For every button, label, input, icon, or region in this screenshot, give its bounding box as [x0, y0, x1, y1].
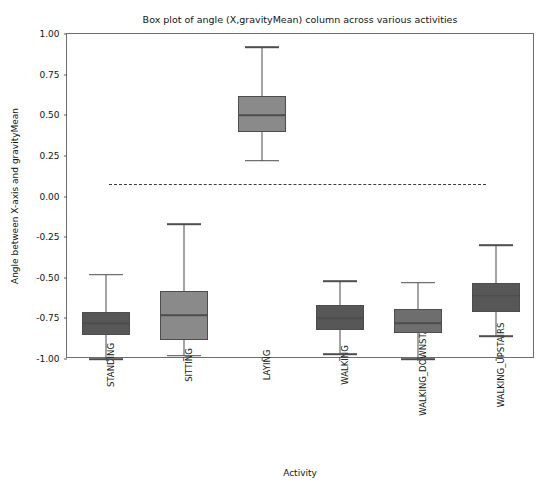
x-tick-label-wrap: STANDING [84, 365, 128, 373]
y-tick-label: -0.50 [36, 273, 63, 282]
y-tick-label: -0.25 [36, 233, 63, 242]
y-tick: 0.75 [39, 70, 67, 79]
y-tick: 1.00 [39, 30, 67, 39]
lower-whisker [496, 312, 497, 336]
x-tick-label-wrap: WALKING_UPSTAIRS [454, 365, 539, 373]
y-tick-mark [64, 34, 68, 35]
y-tick: 0.50 [39, 111, 67, 120]
x-axis-title: Activity [66, 468, 534, 478]
y-tick-mark [64, 359, 68, 360]
y-tick-label: -0.75 [36, 314, 63, 323]
x-tick-label-wrap: SITTING [167, 365, 201, 373]
lower-whisker [418, 333, 419, 359]
upper-whisker-cap [167, 223, 201, 225]
upper-whisker [262, 47, 263, 96]
y-tick-mark [64, 277, 68, 278]
upper-whisker [184, 224, 185, 291]
x-tick-label-wrap: WALKING [320, 365, 360, 373]
upper-whisker-cap [245, 46, 279, 48]
lower-whisker-cap [167, 355, 201, 357]
upper-whisker-cap [401, 282, 435, 284]
box-group[interactable] [472, 34, 520, 357]
y-tick: -0.75 [36, 314, 67, 323]
box-rect[interactable] [472, 283, 520, 312]
upper-whisker-cap [479, 244, 513, 246]
y-tick: -1.00 [36, 355, 67, 364]
lower-whisker [184, 340, 185, 356]
y-tick-label: 0.00 [39, 192, 63, 201]
upper-whisker-cap [89, 274, 123, 276]
y-tick-label: 0.25 [39, 151, 63, 160]
figure-canvas: Box plot of angle (X,gravityMean) column… [0, 0, 550, 495]
y-tick: -0.25 [36, 233, 67, 242]
median-line [316, 318, 364, 320]
y-tick-mark [64, 318, 68, 319]
median-line [160, 314, 208, 316]
box-rect[interactable] [394, 309, 442, 333]
lower-whisker-cap [401, 358, 435, 360]
upper-whisker-cap [323, 280, 357, 282]
y-tick: 0.25 [39, 151, 67, 160]
y-axis-title-label: Angle between X-axis and gravityMean [10, 107, 20, 283]
median-line [472, 295, 520, 297]
lower-whisker [340, 330, 341, 354]
y-tick: 0.00 [39, 192, 67, 201]
upper-whisker [106, 275, 107, 312]
x-tick: WALKING [320, 357, 360, 373]
lower-whisker [262, 132, 263, 161]
y-tick-mark [64, 237, 68, 238]
lower-whisker-cap [479, 335, 513, 337]
x-tick-label-wrap: LAYING [247, 365, 278, 373]
y-tick: -0.50 [36, 273, 67, 282]
x-tick: WALKING_UPSTAIRS [454, 357, 539, 373]
box-group[interactable] [394, 34, 442, 357]
median-line [238, 114, 286, 116]
y-tick-mark [64, 74, 68, 75]
lower-whisker [106, 335, 107, 359]
plot-area: 1.000.750.500.250.00-0.25-0.50-0.75-1.00… [66, 33, 534, 358]
y-tick-mark [64, 115, 68, 116]
median-line [394, 322, 442, 324]
y-tick-mark [64, 196, 68, 197]
box-group[interactable] [238, 34, 286, 357]
box-group[interactable] [82, 34, 130, 357]
upper-whisker [340, 281, 341, 305]
y-tick-label: -1.00 [36, 355, 63, 364]
reference-line [109, 184, 486, 185]
page-title: Box plot of angle (X,gravityMean) column… [66, 14, 534, 25]
median-line [82, 322, 130, 324]
y-tick-label: 1.00 [39, 30, 63, 39]
lower-whisker-cap [89, 358, 123, 360]
y-tick-label: 0.75 [39, 70, 63, 79]
y-tick-mark [64, 155, 68, 156]
y-axis-title: Angle between X-axis and gravityMean [8, 33, 22, 358]
x-tick: LAYING [247, 357, 278, 373]
box-group[interactable] [160, 34, 208, 357]
lower-whisker-cap [323, 353, 357, 355]
lower-whisker-cap [245, 160, 279, 162]
upper-whisker [496, 245, 497, 282]
x-tick: SITTING [167, 357, 201, 373]
box-group[interactable] [316, 34, 364, 357]
upper-whisker [418, 283, 419, 309]
y-tick-label: 0.50 [39, 111, 63, 120]
